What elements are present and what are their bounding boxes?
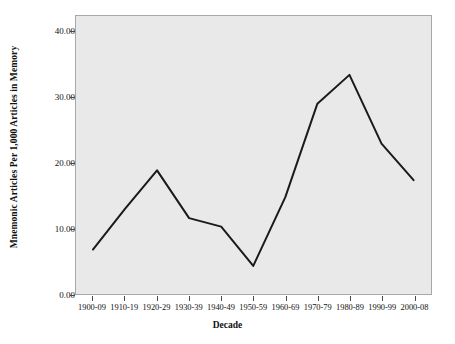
x-tick-mark — [382, 296, 383, 301]
y-tick-label: 0.00 — [33, 290, 75, 300]
x-tick-label: 2000-08 — [388, 303, 442, 313]
x-tick-mark — [318, 296, 319, 301]
x-tick-mark — [350, 296, 351, 301]
x-tick-mark — [415, 296, 416, 301]
y-tick-label: 40.00 — [33, 26, 75, 36]
x-tick-mark — [253, 296, 254, 301]
y-axis: 0.0010.0020.0030.0040.00 — [25, 15, 75, 295]
line-series-svg — [76, 16, 431, 294]
x-axis: 1900-091910-191920-291930-391940-491950-… — [75, 296, 432, 318]
y-axis-title: Mnemonic Articles Per 1,000 Articles in … — [9, 0, 19, 344]
x-tick-mark — [221, 296, 222, 301]
data-line — [93, 75, 414, 266]
y-tick-label: 30.00 — [33, 92, 75, 102]
y-tick-label: 20.00 — [33, 158, 75, 168]
plot-area — [75, 15, 432, 295]
x-axis-title: Decade — [0, 320, 455, 330]
x-tick-mark — [286, 296, 287, 301]
x-tick-mark — [92, 296, 93, 301]
x-tick-mark — [124, 296, 125, 301]
x-tick-mark — [157, 296, 158, 301]
y-tick-label: 10.00 — [33, 224, 75, 234]
chart-figure: Mnemonic Articles Per 1,000 Articles in … — [0, 0, 455, 344]
x-tick-mark — [189, 296, 190, 301]
